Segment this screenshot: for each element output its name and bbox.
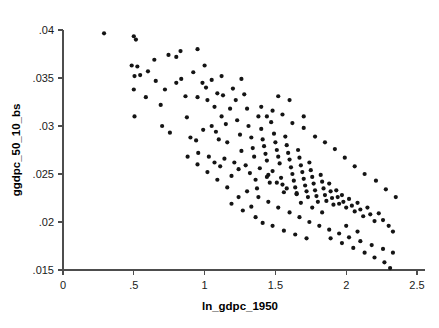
- scatter-point: [249, 205, 253, 209]
- scatter-point: [282, 229, 286, 233]
- scatter-point: [163, 87, 167, 91]
- scatter-point: [285, 186, 289, 190]
- scatter-point: [201, 128, 205, 132]
- scatter-point: [300, 170, 304, 174]
- scatter-point: [314, 194, 318, 198]
- scatter-point: [219, 114, 223, 118]
- scatter-point: [258, 166, 262, 170]
- scatter-point: [290, 121, 294, 125]
- scatter-point: [343, 156, 347, 160]
- x-tick-label: 1.5: [268, 279, 283, 291]
- scatter-point: [204, 86, 208, 90]
- scatter-point: [340, 241, 344, 245]
- scatter-point: [353, 209, 357, 213]
- scatter-point: [195, 95, 199, 99]
- scatter-point: [266, 200, 270, 204]
- scatter-point: [152, 58, 156, 62]
- scatter-point: [229, 174, 233, 178]
- scatter-point: [337, 202, 341, 206]
- scatter-point: [307, 160, 311, 164]
- scatter-point: [293, 185, 297, 189]
- scatter-point: [132, 74, 136, 78]
- scatter-point: [221, 93, 225, 97]
- scatter-point: [242, 92, 246, 96]
- scatter-point: [368, 212, 372, 216]
- scatter-point: [239, 77, 243, 81]
- scatter-point: [329, 236, 333, 240]
- scatter-point: [200, 81, 204, 85]
- scatter-point: [224, 122, 228, 126]
- scatter-point: [347, 197, 351, 201]
- scatter-point: [205, 170, 209, 174]
- y-tick-label: .025: [33, 168, 54, 180]
- scatter-point: [370, 243, 374, 247]
- scatter-point: [160, 124, 164, 128]
- scatter-point: [253, 178, 257, 182]
- scatter-point: [255, 186, 259, 190]
- scatter-point: [358, 239, 362, 243]
- scatter-point: [324, 199, 328, 203]
- scatter-point: [134, 38, 138, 42]
- scatter-point: [320, 180, 324, 184]
- scatter-point: [361, 214, 365, 218]
- scatter-point: [384, 187, 388, 191]
- scatter-point: [210, 124, 214, 128]
- scatter-point: [381, 218, 385, 222]
- scatter-point: [289, 165, 293, 169]
- scatter-point: [234, 98, 238, 102]
- scatter-point: [132, 87, 136, 91]
- y-tick-label: .02: [39, 216, 54, 228]
- scatter-point: [287, 98, 291, 102]
- scatter-point: [228, 107, 232, 111]
- scatter-point: [388, 266, 392, 270]
- scatter-point: [280, 182, 284, 186]
- scatter-point: [238, 133, 242, 137]
- scatter-point: [276, 155, 280, 159]
- scatter-point: [265, 114, 269, 118]
- scatter-point: [344, 224, 348, 228]
- scatter-point: [365, 206, 369, 210]
- scatter-point: [275, 148, 279, 152]
- scatter-point: [183, 94, 187, 98]
- scatter-point: [309, 168, 313, 172]
- scatter-point: [329, 189, 333, 193]
- scatter-point: [336, 195, 340, 199]
- scatter-point: [229, 202, 233, 206]
- scatter-point: [270, 109, 274, 113]
- scatter-point: [374, 179, 378, 183]
- x-tick-label: 0: [60, 279, 66, 291]
- scatter-plot-figure: .015.02.025.03.035.04 ggdpc_50_10_bs 0.5…: [0, 0, 439, 328]
- scatter-point: [185, 115, 189, 119]
- scatter-point: [353, 164, 357, 168]
- scatter-point: [276, 94, 280, 98]
- scatter-point: [256, 114, 260, 118]
- scatter-point: [245, 107, 249, 111]
- scatter-point: [262, 144, 266, 148]
- scatter-point: [241, 208, 245, 212]
- scatter-point: [132, 114, 136, 118]
- scatter-point: [377, 211, 381, 215]
- scatter-point: [276, 206, 280, 210]
- scatter-point: [261, 137, 265, 141]
- x-tick-label: 2: [343, 279, 349, 291]
- y-tick-labels: .015.02.025.03.035.04: [33, 24, 54, 276]
- scatter-point: [210, 78, 214, 82]
- scatter-point: [387, 224, 391, 228]
- scatter-point: [207, 155, 211, 159]
- scatter-point: [179, 77, 183, 81]
- scatter-point: [186, 155, 190, 159]
- scatter-point: [196, 151, 200, 155]
- scatter-point: [327, 182, 331, 186]
- scatter-point: [323, 193, 327, 197]
- scatter-point: [381, 247, 385, 251]
- y-tick-label: .015: [33, 264, 54, 276]
- scatter-point: [391, 251, 395, 255]
- scatter-point: [259, 127, 263, 131]
- scatter-point: [269, 120, 273, 124]
- scatter-point: [344, 206, 348, 210]
- scatter-point: [225, 185, 229, 189]
- scatter-point: [259, 105, 263, 109]
- scatter-point: [195, 47, 199, 51]
- scatter-point: [302, 177, 306, 181]
- scatter-point: [212, 105, 216, 109]
